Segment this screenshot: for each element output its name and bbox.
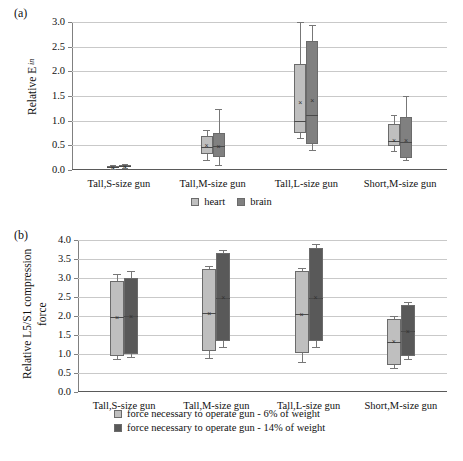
- x-axis-tick-label: Tall,L-size gun: [275, 178, 338, 189]
- panel-b-plot: 0.00.51.01.52.02.53.03.54.0Tall,S-size g…: [78, 240, 447, 392]
- y-axis-tick: [74, 297, 78, 298]
- gridline: [78, 259, 447, 260]
- box-plot-mean-marker: ×: [123, 163, 127, 170]
- y-axis-tick: [74, 354, 78, 355]
- gridline: [72, 96, 447, 97]
- box-plot-mean-marker: ×: [129, 312, 133, 319]
- whisker-cap-lower: [205, 358, 213, 359]
- whisker-cap-upper: [391, 115, 398, 116]
- legend-label-heart: heart: [204, 196, 225, 207]
- gridline: [72, 22, 447, 23]
- panel-a-label: (a): [14, 6, 27, 21]
- whisker-cap-lower: [309, 150, 316, 151]
- box-plot-mean-marker: ×: [392, 136, 396, 143]
- y-axis-tick: [68, 96, 72, 97]
- legend-swatch-heart: [191, 198, 199, 206]
- whisker-cap-upper: [203, 130, 210, 131]
- y-axis-tick-label: 1.0: [52, 120, 65, 121]
- panel-a-y-axis-label: Relative Ein: [26, 28, 42, 148]
- whisker-cap-upper: [404, 302, 412, 303]
- box-plot-median: [306, 115, 318, 116]
- panel-a-plot-area: 0.00.51.01.52.02.53.0Tall,S-size gun××Ta…: [72, 22, 447, 170]
- whisker-upper: [406, 96, 407, 117]
- whisker-cap-lower: [312, 347, 320, 348]
- y-axis-tick-label: 2.0: [58, 315, 71, 316]
- whisker-lower: [302, 353, 303, 362]
- y-axis-tick-label: 3.0: [52, 21, 65, 22]
- legend-entry-brain: brain: [237, 196, 272, 207]
- gridline: [72, 47, 447, 48]
- legend-label-brain: brain: [250, 196, 272, 207]
- y-axis-tick: [68, 47, 72, 48]
- whisker-upper: [394, 115, 395, 123]
- y-axis-tick-label: 3.5: [58, 258, 71, 259]
- whisker-cap-lower: [297, 138, 304, 139]
- legend-label-force-6: force necessary to operate gun - 6% of w…: [127, 408, 320, 419]
- whisker-cap-upper: [403, 96, 410, 97]
- whisker-cap-upper: [390, 316, 398, 317]
- y-axis-tick: [68, 22, 72, 23]
- box-plot-box: [306, 41, 318, 145]
- whisker-cap-lower: [215, 165, 222, 166]
- whisker-cap-upper: [312, 244, 320, 245]
- whisker-cap-lower: [391, 151, 398, 152]
- legend-entry-force-6: force necessary to operate gun - 6% of w…: [114, 408, 349, 419]
- gridline: [78, 240, 447, 241]
- box-plot-mean-marker: ×: [111, 163, 115, 170]
- panel-a-plot: 0.00.51.01.52.02.53.0Tall,S-size gun××Ta…: [72, 22, 447, 170]
- y-axis-tick-label: 3.0: [58, 277, 71, 278]
- box-plot-mean-marker: ×: [300, 310, 304, 317]
- box-plot-mean-marker: ×: [298, 98, 302, 105]
- panel-a-y-axis-label-text: Relative E: [26, 67, 38, 115]
- whisker-cap-lower: [127, 357, 135, 358]
- whisker-cap-lower: [219, 347, 227, 348]
- box-plot-mean-marker: ×: [205, 142, 209, 149]
- panel-a-legend: heart brain: [0, 196, 463, 207]
- y-axis-tick-label: 2.5: [58, 296, 71, 297]
- box-plot-mean-marker: ×: [314, 294, 318, 301]
- whisker-cap-upper: [113, 274, 121, 275]
- whisker-cap-upper: [205, 266, 213, 267]
- y-axis-tick: [68, 145, 72, 146]
- y-axis-tick: [74, 259, 78, 260]
- whisker-cap-lower: [404, 359, 412, 360]
- legend-entry-force-14: force necessary to operate gun - 14% of …: [114, 422, 349, 433]
- whisker-cap-upper: [297, 22, 304, 23]
- panel-b-y-axis-label: Relative L5/S1 compression force: [20, 244, 52, 384]
- x-axis-tick-label: Tall,S-size gun: [87, 178, 150, 189]
- panel-b-x-axis-line: [78, 391, 447, 392]
- legend-label-force-14: force necessary to operate gun - 14% of …: [127, 422, 325, 433]
- whisker-upper: [117, 274, 118, 281]
- panel-a: (a) Relative Ein 0.00.51.01.52.02.53.0Ta…: [0, 0, 463, 230]
- whisker-cap-lower: [403, 160, 410, 161]
- box-plot-mean-marker: ×: [392, 338, 396, 345]
- legend-swatch-force-14: [114, 424, 122, 432]
- panel-b-plot-area: 0.00.51.01.52.02.53.03.54.0Tall,S-size g…: [78, 240, 447, 392]
- y-axis-tick-label: 2.0: [52, 70, 65, 71]
- whisker-upper: [300, 22, 301, 64]
- whisker-cap-upper: [215, 109, 222, 110]
- y-axis-tick-label: 0.0: [52, 169, 65, 170]
- gridline: [72, 71, 447, 72]
- y-axis-tick-label: 1.5: [58, 334, 71, 335]
- y-axis-tick-label: 2.5: [52, 46, 65, 47]
- box-plot-mean-marker: ×: [217, 143, 221, 150]
- panel-b: (b) Relative L5/S1 compression force 0.0…: [0, 222, 463, 461]
- y-axis-tick-label: 1.0: [58, 353, 71, 354]
- whisker-cap-upper: [219, 250, 227, 251]
- whisker-cap-lower: [113, 359, 121, 360]
- y-axis-tick-label: 0.5: [58, 372, 71, 373]
- whisker-cap-lower: [298, 362, 306, 363]
- y-axis-tick-label: 0.5: [52, 144, 65, 145]
- y-axis-tick-label: 4.0: [58, 239, 71, 240]
- panel-a-x-axis-line: [72, 169, 447, 170]
- gridline: [78, 373, 447, 374]
- y-axis-tick: [74, 316, 78, 317]
- legend-swatch-brain: [237, 198, 245, 206]
- whisker-cap-upper: [127, 271, 135, 272]
- box-plot-mean-marker: ×: [404, 137, 408, 144]
- legend-swatch-force-6: [114, 410, 122, 418]
- y-axis-tick-label: 0.0: [58, 391, 71, 392]
- whisker-upper: [219, 109, 220, 133]
- box-plot-median: [294, 121, 306, 122]
